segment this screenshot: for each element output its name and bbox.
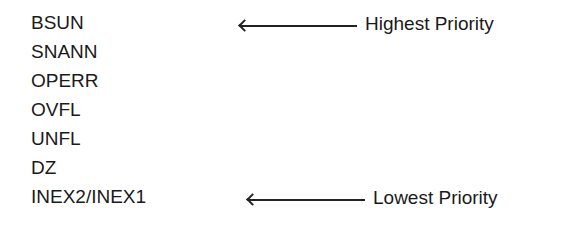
priority-item-bsun: BSUN <box>31 12 84 34</box>
left-arrow-icon <box>241 25 357 27</box>
priority-item-operr: OPERR <box>31 70 99 92</box>
priority-item-unfl: UNFL <box>31 128 81 150</box>
lowest-priority-label: Lowest Priority <box>373 187 498 209</box>
left-arrow-icon <box>249 199 365 201</box>
priority-item-inex: INEX2/INEX1 <box>31 186 146 208</box>
priority-item-ovfl: OVFL <box>31 99 81 121</box>
priority-item-snann: SNANN <box>31 41 98 63</box>
highest-priority-label: Highest Priority <box>365 13 494 35</box>
priority-item-dz: DZ <box>31 157 56 179</box>
